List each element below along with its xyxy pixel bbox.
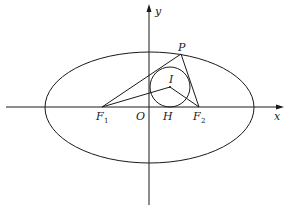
label-F1-subscript: 1	[104, 117, 108, 125]
label-y: y	[154, 5, 162, 18]
ellipse-incircle-diagram: y x P I O H F 1 F 2	[0, 0, 284, 216]
label-P: P	[177, 41, 186, 54]
label-x: x	[274, 110, 281, 123]
label-F2-subscript: 2	[201, 117, 205, 125]
y-axis-arrow-icon	[147, 4, 152, 12]
label-I: I	[168, 73, 174, 86]
label-H: H	[162, 110, 173, 123]
label-O: O	[136, 110, 145, 123]
label-F1: F	[95, 110, 104, 123]
segment-PF2	[181, 54, 199, 107]
label-F2: F	[192, 110, 201, 123]
point-I-dot	[169, 86, 171, 88]
segment-IF2	[170, 87, 199, 107]
x-axis-arrow-icon	[276, 105, 284, 110]
